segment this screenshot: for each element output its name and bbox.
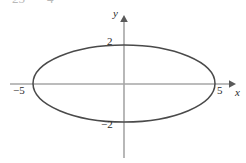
y-axis-arrowhead bbox=[120, 15, 128, 22]
tick-label-x-positive: 5 bbox=[217, 85, 223, 96]
tick-label-y-positive: 2 bbox=[107, 36, 113, 47]
coordinate-plane-svg bbox=[0, 0, 246, 163]
tick-label-x-negative: −5 bbox=[13, 85, 25, 96]
x-axis-label: x bbox=[235, 87, 240, 98]
ellipse-figure: 25 4 y x 2 −2 5 −5 bbox=[0, 0, 246, 163]
y-axis-label: y bbox=[113, 8, 118, 19]
tick-label-y-negative: −2 bbox=[101, 119, 113, 130]
